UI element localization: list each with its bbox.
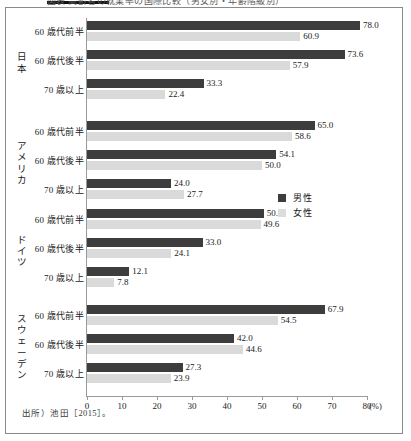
x-axis-tick-label: 70 [328,401,337,411]
bar-value-male: 24.0 [174,178,190,188]
age-group-label: 60 歳代前半 [0,25,84,38]
bar-male [87,21,360,30]
x-axis-unit-label: (%) [369,401,382,411]
x-axis-tick [87,396,88,400]
bar-female [87,316,278,325]
bar-value-female: 54.5 [281,315,297,325]
x-axis-tick [332,396,333,400]
age-group-row: 60 歳代後半33.024.1 [6,237,404,261]
age-group-label: 70 歳以上 [0,183,84,196]
bar-value-male: 78.0 [363,20,379,30]
country-group: 日本60 歳代前半78.060.960 歳代後半73.657.970 歳以上33… [6,20,404,107]
bar-value-male: 42.0 [237,333,253,343]
age-group-row: 70 歳以上12.17.8 [6,266,404,290]
legend-swatch-male [278,194,286,202]
truncated-caption-text: 図表 高齢者の就業率の国際比較（男女別・年齢階級別） [47,0,285,7]
bar-value-female: 57.9 [293,60,309,70]
age-group-row: 60 歳代前半65.058.6 [6,120,404,144]
bar-male [87,150,276,159]
bar-male [87,334,234,343]
bar-male [87,179,171,188]
x-axis-tick-label: 10 [118,401,127,411]
legend-item: 女性 [278,206,368,221]
figure-frame: 日本60 歳代前半78.060.960 歳代後半73.657.970 歳以上33… [5,7,403,434]
age-group-label: 60 歳代後半 [0,154,84,167]
bar-value-male: 33.0 [206,237,222,247]
legend-label-female: 女性 [293,206,312,219]
x-axis-tick [122,396,123,400]
bar-female [87,249,171,258]
legend-item: 男性 [278,191,368,206]
bar-male [87,238,203,247]
age-group-label: 60 歳代前半 [0,125,84,138]
bar-value-male: 73.6 [348,49,364,59]
bar-value-female: 7.8 [117,277,128,287]
bar-female [87,345,243,354]
bar-value-female: 27.7 [187,189,203,199]
x-axis-tick-label: 40 [223,401,232,411]
x-axis-tick [297,396,298,400]
age-group-label: 60 歳代前半 [0,213,84,226]
bar-value-male: 12.1 [132,266,148,276]
bar-male [87,121,315,130]
bar-value-female: 49.6 [264,219,280,229]
bar-male [87,267,129,276]
bar-female [87,220,261,229]
bar-male [87,50,345,59]
age-group-label: 70 歳以上 [0,83,84,96]
x-axis-tick [227,396,228,400]
bar-male [87,305,325,314]
chart-legend: 男性女性 [278,191,368,221]
age-group-label: 60 歳代後半 [0,242,84,255]
age-group-row: 60 歳代前半67.954.5 [6,304,404,328]
age-group-row: 60 歳代後半42.044.6 [6,333,404,357]
age-group-label: 60 歳代後半 [0,54,84,67]
bar-value-female: 44.6 [246,344,262,354]
legend-label-male: 男性 [293,191,312,204]
truncated-caption-strip: 図表 高齢者の就業率の国際比較（男女別・年齢階級別） [0,0,411,7]
bar-value-female: 24.1 [174,248,190,258]
bar-value-male: 54.1 [279,149,295,159]
age-group-label: 60 歳代後半 [0,338,84,351]
bar-value-female: 22.4 [168,89,184,99]
bar-female [87,90,165,99]
x-axis-tick [157,396,158,400]
bar-value-female: 50.0 [265,160,281,170]
bar-value-male: 67.9 [328,304,344,314]
bar-female [87,32,300,41]
x-axis-tick-label: 60 [293,401,302,411]
bar-female [87,161,262,170]
country-group: ドイツ60 歳代前半50.549.660 歳代後半33.024.170 歳以上1… [6,208,404,295]
bar-value-male: 33.3 [207,78,223,88]
bar-female [87,278,114,287]
bar-value-female: 58.6 [295,131,311,141]
bar-male [87,209,264,218]
age-group-row: 60 歳代前半78.060.9 [6,20,404,44]
bar-value-male: 65.0 [318,120,334,130]
bar-male [87,363,183,372]
age-group-row: 60 歳代後半54.150.0 [6,149,404,173]
country-group: スウェーデン60 歳代前半67.954.560 歳代後半42.044.670 歳… [6,304,404,391]
x-axis-tick-label: 20 [153,401,162,411]
age-group-row: 70 歳以上33.322.4 [6,78,404,102]
legend-swatch-female [278,209,286,217]
age-group-label: 70 歳以上 [0,271,84,284]
bar-female [87,374,171,383]
age-group-label: 60 歳代前半 [0,309,84,322]
x-axis-tick [192,396,193,400]
bar-female [87,61,290,70]
source-note: 出所）池田［2015］。 [22,406,112,418]
chart-plot-area: 日本60 歳代前半78.060.960 歳代後半73.657.970 歳以上33… [6,8,404,435]
bar-female [87,132,292,141]
bar-value-female: 23.9 [174,373,190,383]
x-axis-tick-label: 30 [188,401,197,411]
x-axis-tick-label: 50 [258,401,267,411]
age-group-row: 70 歳以上27.323.9 [6,362,404,386]
x-axis-tick [367,396,368,400]
bar-value-female: 60.9 [303,31,319,41]
bar-female [87,190,184,199]
age-group-row: 60 歳代後半73.657.9 [6,49,404,73]
bar-male [87,79,204,88]
age-group-label: 70 歳以上 [0,367,84,380]
x-axis-tick [262,396,263,400]
